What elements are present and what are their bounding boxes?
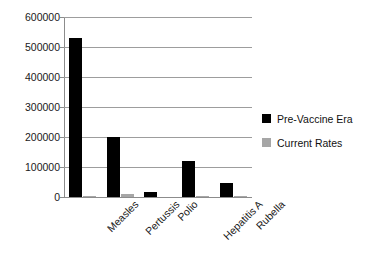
plot-area [64,17,252,197]
x-axis-tick-label: Polio [175,198,200,223]
bar-group [214,17,252,197]
y-axis-tick-label: 400000 [2,71,60,83]
bar-chart: 6000005000004000003000002000001000000 Me… [0,0,375,267]
bar [234,196,247,197]
chart-legend: Pre-Vaccine EraCurrent Rates [262,112,374,160]
y-axis-tick-label: 0 [2,191,60,203]
legend-item[interactable]: Current Rates [262,136,374,149]
y-axis-tick-label: 600000 [2,11,60,23]
y-axis-tick-label: 200000 [2,131,60,143]
legend-item[interactable]: Pre-Vaccine Era [262,112,374,125]
bar [144,192,157,197]
bar-group [139,17,177,197]
bar [220,183,233,197]
bar [69,38,82,197]
bar [121,194,134,197]
bar-group [64,17,102,197]
legend-label: Pre-Vaccine Era [277,113,353,125]
legend-swatch-icon [262,138,271,147]
y-axis-tick-label: 500000 [2,41,60,53]
y-axis-tick-label: 300000 [2,101,60,113]
legend-swatch-icon [262,114,271,123]
y-axis-labels: 6000005000004000003000002000001000000 [0,17,60,198]
bar-group [177,17,215,197]
bar-groups [64,17,252,197]
x-axis-labels: MeaslesPertussisPolioHepatitis ARubella [64,198,252,264]
bar [107,137,120,197]
bar [196,196,209,198]
bar [182,161,195,197]
bar [83,196,96,197]
x-axis-tick-label: Pertussis [143,198,182,237]
y-axis-tick-label: 100000 [2,161,60,173]
bar-group [102,17,140,197]
x-axis-tick-label: Measles [104,198,140,234]
legend-label: Current Rates [277,137,342,149]
